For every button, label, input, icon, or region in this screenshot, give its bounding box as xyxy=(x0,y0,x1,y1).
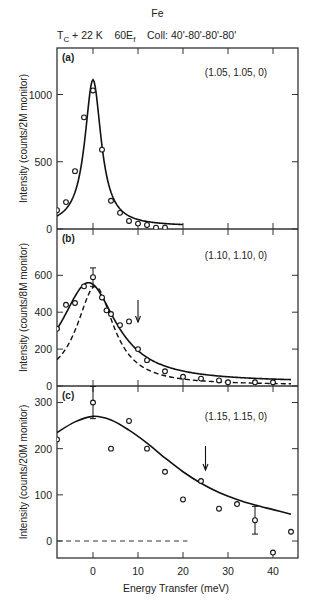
data-point xyxy=(109,198,114,203)
plot-area xyxy=(55,80,183,230)
x-tick-label: 10 xyxy=(132,565,144,577)
y-tick-label: 200 xyxy=(34,343,52,355)
data-point xyxy=(145,223,150,228)
y-tick-label: 400 xyxy=(34,306,52,318)
panel-label: (b) xyxy=(62,233,75,244)
data-point xyxy=(163,469,168,474)
x-tick-label: 0 xyxy=(90,565,96,577)
plot-area xyxy=(55,268,291,385)
data-point xyxy=(109,312,114,317)
hkl-annotation: (1.10, 1.10, 0) xyxy=(205,250,267,261)
data-point xyxy=(253,518,258,523)
y-tick-label: 600 xyxy=(34,269,52,281)
fit-curve xyxy=(57,416,291,514)
data-point xyxy=(289,529,294,534)
data-point xyxy=(181,374,186,379)
data-point xyxy=(145,358,150,363)
data-point xyxy=(127,219,132,224)
data-point xyxy=(109,446,114,451)
fit-curve xyxy=(57,283,291,380)
y-tick-label: 100 xyxy=(34,489,52,501)
y-tick-label: 500 xyxy=(34,156,52,168)
data-point xyxy=(217,506,222,511)
fit-curve xyxy=(57,80,183,225)
y-tick-label: 0 xyxy=(46,223,52,235)
y-axis-label: Intensity (counts/8M monitor) xyxy=(18,243,29,372)
data-point xyxy=(55,326,60,331)
data-point xyxy=(118,323,123,328)
panel-label: (c) xyxy=(62,390,74,401)
data-point xyxy=(118,210,123,215)
panel-c: 0100200300(c)(1.15, 1.15, 0)Intensity (c… xyxy=(18,386,298,558)
data-point xyxy=(100,147,105,152)
data-point xyxy=(127,419,132,424)
data-point xyxy=(104,308,109,313)
y-tick-label: 200 xyxy=(34,443,52,455)
figure-plot: 05001000(a)(1.05, 1.05, 0)Intensity (cou… xyxy=(0,0,315,606)
data-point xyxy=(127,319,132,324)
panel-b: 0200400600(b)(1.10, 1.10, 0)Intensity (c… xyxy=(18,229,298,392)
y-axis-label: Intensity (counts/2M monitor) xyxy=(18,74,29,203)
data-point xyxy=(91,88,96,93)
data-point xyxy=(181,497,186,502)
x-axis-label: Energy Transfer (meV) xyxy=(123,582,229,594)
data-point xyxy=(199,479,204,484)
data-point xyxy=(64,302,69,307)
data-point xyxy=(136,221,141,226)
data-point xyxy=(82,284,87,289)
x-tick-label: 40 xyxy=(267,565,279,577)
data-point xyxy=(271,550,276,555)
data-point xyxy=(271,380,276,385)
hkl-annotation: (1.05, 1.05, 0) xyxy=(205,67,267,78)
panel-label: (a) xyxy=(62,52,74,63)
data-point xyxy=(136,347,141,352)
plot-frame xyxy=(57,48,298,558)
x-axis: 010203040Energy Transfer (meV) xyxy=(90,565,279,594)
x-tick-label: 30 xyxy=(222,565,234,577)
y-axis-label: Intensity (counts/20M monitor) xyxy=(18,405,29,540)
data-point xyxy=(91,400,96,405)
y-tick-label: 0 xyxy=(46,535,52,547)
x-tick-label: 20 xyxy=(177,565,189,577)
data-point xyxy=(55,208,60,213)
y-tick-label: 1000 xyxy=(29,89,53,101)
data-point xyxy=(226,380,231,385)
data-point xyxy=(235,502,240,507)
data-point xyxy=(82,115,87,120)
outer-frame xyxy=(57,48,298,558)
y-tick-label: 300 xyxy=(34,396,52,408)
data-point xyxy=(91,275,96,280)
data-point xyxy=(199,376,204,381)
hkl-annotation: (1.15, 1.15, 0) xyxy=(205,411,267,422)
data-point xyxy=(163,369,168,374)
data-point xyxy=(100,295,105,300)
y-tick-label: 0 xyxy=(46,380,52,392)
data-point xyxy=(145,446,150,451)
data-point xyxy=(73,301,78,306)
data-point xyxy=(217,378,222,383)
panel-a: 05001000(a)(1.05, 1.05, 0)Intensity (cou… xyxy=(18,48,298,235)
data-point xyxy=(253,380,258,385)
data-point xyxy=(64,200,69,205)
data-point xyxy=(55,437,60,442)
data-point xyxy=(73,169,78,174)
